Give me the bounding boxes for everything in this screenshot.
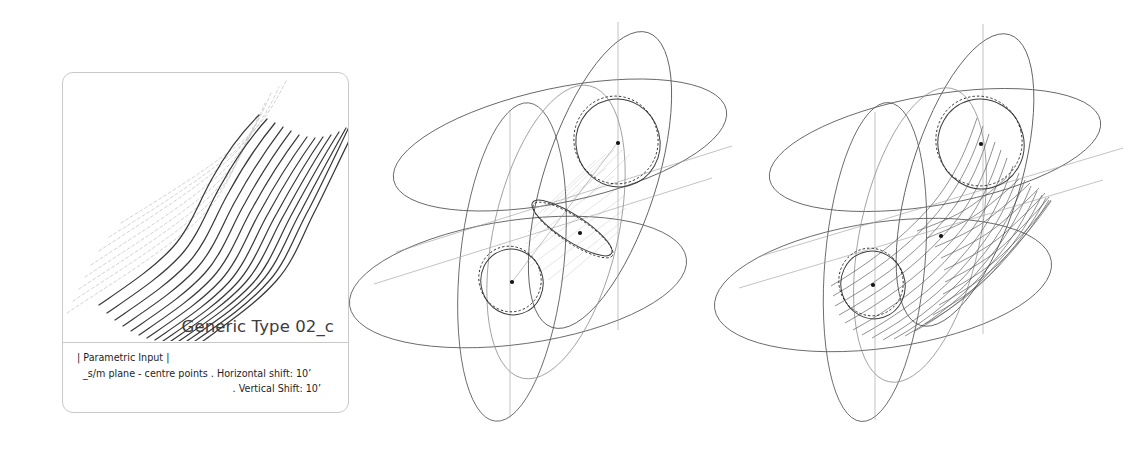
parametric-input-heading: | Parametric Input | — [75, 350, 336, 366]
centre-point-mid — [939, 234, 943, 238]
centre-point — [871, 283, 875, 287]
construction-right-svg — [715, 0, 1142, 458]
curve-family — [99, 115, 348, 341]
construction-middle-svg — [360, 0, 750, 458]
card-divider — [63, 342, 348, 343]
ghost-construction-trails — [67, 79, 287, 313]
construction-right — [715, 0, 1142, 458]
curve-family-svg — [63, 73, 348, 341]
centre-point — [578, 231, 582, 235]
lower-circle — [830, 240, 914, 327]
parametric-input-block: | Parametric Input | _s/m plane - centre… — [63, 350, 348, 397]
centre-point — [979, 142, 983, 146]
construction-middle — [360, 0, 750, 458]
construction-axes — [374, 22, 732, 418]
centre-point — [510, 280, 514, 284]
drawing-sheet: Generic Type 02_c | Parametric Input | _… — [0, 0, 1142, 458]
centre-point — [616, 141, 620, 145]
construction-axes — [739, 24, 1123, 420]
edge-on-circle — [526, 191, 620, 266]
parameter-vertical-shift: . Vertical Shift: 10’ — [75, 381, 336, 397]
page-title: Generic Type 02_c — [182, 317, 334, 336]
great-ellipse-frames — [341, 15, 738, 426]
info-card: Generic Type 02_c | Parametric Input | _… — [62, 72, 349, 413]
great-ellipse-frames — [706, 19, 1110, 426]
parameter-plane-and-horizontal-shift: _s/m plane - centre points . Horizontal … — [75, 366, 336, 382]
lower-circle — [470, 238, 551, 323]
thumbnail-figure — [63, 73, 348, 341]
upper-circle — [565, 87, 670, 196]
